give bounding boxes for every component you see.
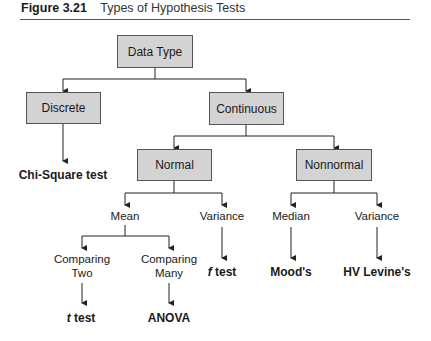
node-variance-nonnormal: Variance [355,209,400,223]
result-chi-square: Chi-Square test [19,168,108,182]
node-median: Median [272,209,310,223]
node-continuous: Continuous [209,92,284,125]
node-nonnormal-label: Nonnormal [305,158,364,172]
result-t-test-rest: test [71,311,96,325]
node-variance-normal: Variance [200,209,245,223]
result-t-test: t test [67,311,96,325]
node-normal: Normal [137,149,212,181]
result-hv-levines: HV Levine's [343,265,411,279]
result-moods: Mood's [270,265,312,279]
node-comparing-two: Comparing Two [54,252,110,280]
node-comparing-many-line2: Many [141,266,197,280]
node-data-type: Data Type [117,35,193,68]
node-comparing-two-line2: Two [54,266,110,280]
node-discrete: Discrete [26,92,101,124]
result-f-test-rest: test [212,265,237,279]
result-f-test: f test [208,265,237,279]
node-comparing-many: Comparing Many [141,252,197,280]
node-continuous-label: Continuous [216,102,277,116]
node-data-type-label: Data Type [128,45,182,59]
node-comparing-two-line1: Comparing [54,252,110,266]
node-nonnormal: Nonnormal [296,149,372,181]
node-comparing-many-line1: Comparing [141,252,197,266]
node-discrete-label: Discrete [41,101,85,115]
node-normal-label: Normal [155,158,194,172]
result-anova: ANOVA [148,311,190,325]
node-mean: Mean [111,209,140,223]
